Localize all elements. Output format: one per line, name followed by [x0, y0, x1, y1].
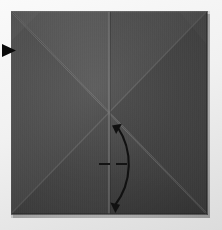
paper-vignette [11, 11, 210, 218]
figure-canvas: Origami step: valley-fold right half to … [0, 0, 222, 230]
origami-paper [11, 11, 210, 218]
